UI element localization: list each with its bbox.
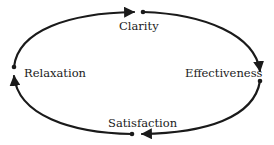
- arrow-relaxation-to-clarity: [14, 12, 134, 67]
- node-label-clarity: Clarity: [119, 21, 159, 33]
- dot-clarity: [141, 10, 146, 15]
- node-label-satisfaction: Satisfaction: [108, 118, 177, 130]
- cycle-diagram: Clarity Effectiveness Satisfaction Relax…: [0, 0, 274, 145]
- node-label-effectiveness: Effectiveness: [185, 68, 262, 80]
- dot-satisfaction: [130, 132, 135, 137]
- node-label-relaxation: Relaxation: [24, 68, 86, 80]
- arrow-clarity-to-effectiveness: [143, 12, 260, 71]
- dot-relaxation: [12, 65, 17, 70]
